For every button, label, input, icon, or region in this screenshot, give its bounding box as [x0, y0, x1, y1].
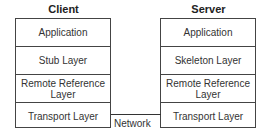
- client-stack: Application Stub Layer Remote Reference …: [15, 18, 111, 128]
- server-remote-reference-layer: Remote Reference Layer: [161, 75, 255, 103]
- client-title: Client: [15, 3, 112, 15]
- network-connection-line: [111, 114, 161, 115]
- network-label: Network: [114, 118, 151, 129]
- client-remote-reference-layer: Remote Reference Layer: [16, 75, 110, 103]
- client-transport-layer: Transport Layer: [16, 103, 110, 129]
- server-application-layer: Application: [161, 19, 255, 47]
- server-skeleton-layer: Skeleton Layer: [161, 47, 255, 75]
- client-stub-layer: Stub Layer: [16, 47, 110, 75]
- server-transport-layer: Transport Layer: [161, 103, 255, 129]
- server-stack: Application Skeleton Layer Remote Refere…: [160, 18, 256, 128]
- server-title: Server: [160, 3, 257, 15]
- client-application-layer: Application: [16, 19, 110, 47]
